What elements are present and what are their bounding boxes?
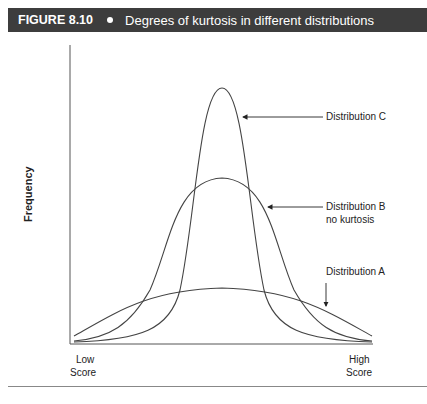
label-distribution-c: Distribution C	[326, 111, 386, 123]
label-distribution-b: Distribution B	[326, 201, 385, 213]
bottom-divider	[8, 386, 427, 387]
x-high-line2: Score	[346, 367, 372, 379]
label-no-kurtosis: no kurtosis	[326, 214, 374, 226]
x-high-line1: High	[349, 354, 370, 366]
x-low-line1: Low	[76, 354, 94, 366]
label-distribution-a: Distribution A	[326, 266, 385, 278]
y-axis-label: Frequency	[22, 166, 34, 222]
x-low-line2: Score	[70, 367, 96, 379]
